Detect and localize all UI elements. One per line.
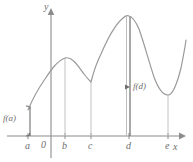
graph-canvas <box>0 0 193 162</box>
f-d-arrow-icon <box>125 85 130 90</box>
tick-label-a: a <box>25 141 30 151</box>
x-axis-label: x <box>173 142 177 152</box>
f-d-label: f(d) <box>133 82 146 91</box>
function-graph-figure: y x 0 a b c d e f(a) f(d) <box>0 0 193 162</box>
origin-label: 0 <box>41 140 46 150</box>
tick-label-b: b <box>62 141 67 151</box>
y-axis-label: y <box>44 2 48 12</box>
function-curve <box>28 16 186 110</box>
axes-group <box>7 8 186 158</box>
f-d-measure-bar <box>125 16 130 136</box>
tick-label-e: e <box>165 141 169 151</box>
tick-label-c: c <box>88 141 92 151</box>
f-a-label: f(a) <box>3 114 16 123</box>
tick-label-d: d <box>126 141 131 151</box>
x-axis-arrow-icon <box>179 133 186 140</box>
y-axis-arrow-icon <box>48 8 55 15</box>
